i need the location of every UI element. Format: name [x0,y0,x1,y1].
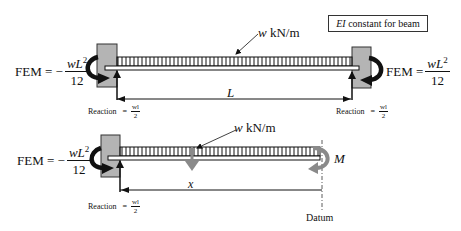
bottom-beam-member [108,156,320,160]
ei-constant-note: EI constant for beam [328,15,428,32]
top-load-leader [236,34,258,54]
top-right-reaction-label: Reaction = wl 2 [336,104,388,120]
top-left-reaction-label: Reaction = wl 2 [88,104,140,120]
top-beam [88,34,381,102]
top-right-fem-label: FEM = wL2 12 [386,56,450,87]
bottom-udl-load [120,147,320,156]
bottom-left-reaction-label: Reaction = wl 2 [88,199,140,215]
distance-x-label: x [188,178,193,190]
span-length-label: L [227,86,234,99]
top-beam-member [105,66,359,70]
moment-label: M [334,152,345,165]
ei-note-text: constant for beam [346,18,420,29]
bottom-load-label: w kN/m [234,121,276,134]
datum-label: Datum [306,213,333,223]
ei-symbol: EI [336,18,345,29]
bottom-load-leader [197,130,236,148]
top-load-label: w kN/m [258,26,300,39]
bottom-left-fem-label: FEM = − wL2 12 [17,145,91,176]
top-left-fem-label: FEM = − wL2 12 [15,56,89,87]
top-udl-load [117,57,352,66]
beam-diagram-graphics [0,0,461,231]
